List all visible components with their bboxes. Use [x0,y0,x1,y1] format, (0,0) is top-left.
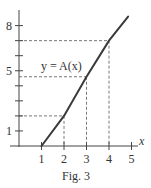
x-tick-label: 3 [84,152,90,166]
x-tick-label: 5 [129,152,135,166]
x-tick-label: 4 [106,152,112,166]
chart: 158 12345 y = A(x) x Fig. 3 [0,0,151,188]
x-axis-label: x [138,134,145,148]
dashed-guides [19,41,109,146]
y-ticks: 158 [6,19,23,138]
y-tick-label: 8 [6,19,12,33]
curve-a-of-x [42,17,129,146]
y-tick-label: 1 [6,124,12,138]
x-tick-label: 1 [39,152,45,166]
x-tick-label: 2 [61,152,67,166]
figure-caption: Fig. 3 [62,169,90,183]
curve-label: y = A(x) [41,59,82,73]
y-tick-label: 5 [6,64,12,78]
